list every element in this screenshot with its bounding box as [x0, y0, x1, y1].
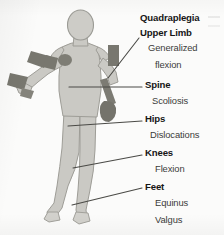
label-feet: Feet: [145, 181, 164, 192]
label-column: Quadraplegia Upper Limb Generalized flex…: [0, 0, 224, 235]
label-hips: Hips: [145, 113, 165, 124]
label-spine-scoliosis: Scoliosis: [152, 95, 188, 106]
label-upper-limb-generalized: Generalized: [148, 42, 197, 53]
label-feet-equinus: Equinus: [155, 197, 188, 208]
label-upper-limb-flexion: flexion: [155, 59, 181, 70]
label-knees-flexion: Flexion: [155, 163, 185, 174]
label-quadraplegia: Quadraplegia: [140, 12, 200, 23]
label-feet-valgus: Valgus: [155, 214, 182, 225]
label-upper-limb: Upper Limb: [140, 27, 192, 38]
clinical-diagram-quadraplegia: Quadraplegia Upper Limb Generalized flex…: [0, 0, 224, 235]
label-spine: Spine: [145, 79, 170, 90]
label-hips-dislocations: Dislocations: [150, 129, 199, 140]
label-knees: Knees: [145, 147, 173, 158]
